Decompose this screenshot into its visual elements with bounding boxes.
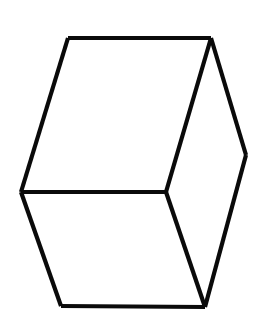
cube-edge-bottom: [61, 306, 205, 307]
wireframe-cube-drawing: [0, 0, 255, 329]
figure-canvas: [0, 0, 255, 329]
